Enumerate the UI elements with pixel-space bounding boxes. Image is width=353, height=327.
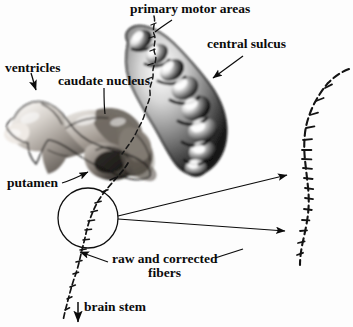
magnification-arrow-lower <box>118 219 285 231</box>
magnification-arrow-upper <box>118 175 287 216</box>
raw-corrected-leader-right <box>215 249 243 258</box>
central-sulcus-arrow <box>213 56 243 78</box>
label-caudate-nucleus: caudate nucleus <box>58 74 150 88</box>
ventricles-arrow <box>31 73 36 90</box>
putamen-arrow <box>62 172 88 183</box>
label-brain-stem: brain stem <box>84 300 146 314</box>
label-central-sulcus: central sulcus <box>207 37 286 51</box>
magnified-fiber-detail <box>297 69 349 265</box>
label-putamen: putamen <box>7 176 58 190</box>
corticospinal-fiber-descending <box>63 163 128 321</box>
anatomical-figure: primary motor areas central sulcus ventr… <box>0 0 353 327</box>
label-primary-motor-areas: primary motor areas <box>130 2 250 16</box>
raw-corrected-leader-left <box>80 252 108 262</box>
caudate-nucleus-leader <box>104 88 105 114</box>
primary-motor-areas-leader <box>155 20 172 32</box>
label-ventricles: ventricles <box>5 61 60 75</box>
label-raw-and-corrected-fibers-line2: fibers <box>148 266 181 280</box>
